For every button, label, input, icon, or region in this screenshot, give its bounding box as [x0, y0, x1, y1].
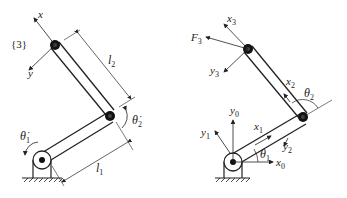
- axis-x1: [255, 136, 271, 145]
- axis-y1: [215, 131, 230, 153]
- theta1-label: θ1: [260, 147, 270, 163]
- left-robot-arm: x y {3} l2 l1 θ̇2 θ̇1: [11, 8, 142, 186]
- y3-label: y3: [209, 64, 219, 79]
- theta1-dot-label: θ̇1: [20, 129, 30, 145]
- l1-dimension: [62, 142, 128, 182]
- link-1-left: [40, 113, 113, 163]
- axis-y3: [224, 49, 248, 72]
- frame-3-label: {3}: [11, 38, 27, 50]
- theta1-arc: [254, 149, 258, 162]
- robot-arm-diagram: x y {3} l2 l1 θ̇2 θ̇1: [0, 0, 347, 198]
- axis-y-left: [29, 45, 55, 70]
- x3-label: x3: [226, 12, 236, 27]
- y1-label: y1: [200, 126, 210, 141]
- link-2-left: [51, 42, 114, 115]
- y2-label: y2: [282, 140, 292, 155]
- x0-label: x0: [275, 156, 285, 171]
- link-2-right: [244, 46, 307, 118]
- y0-label: y0: [229, 104, 239, 119]
- F3-label: F3: [190, 31, 202, 46]
- theta2-dot-arc: [122, 110, 127, 128]
- theta2-label: θ2: [304, 86, 314, 102]
- theta2-arc: [292, 99, 318, 108]
- theta2-dot-label: θ̇2: [132, 113, 142, 129]
- l1-label: l1: [96, 161, 103, 177]
- theta2-reference-line: [303, 100, 332, 117]
- axis-y-label: y: [27, 67, 33, 79]
- l2-label: l2: [108, 53, 115, 69]
- l2-dimension: [78, 33, 131, 99]
- right-robot-arm: x3 F3 y3 x2 θ2 y0 x0 y1 x1 y2 θ1: [190, 12, 332, 182]
- x1-label: x1: [253, 120, 263, 135]
- axis-x-left: [34, 18, 55, 45]
- axis-x-label: x: [37, 8, 43, 20]
